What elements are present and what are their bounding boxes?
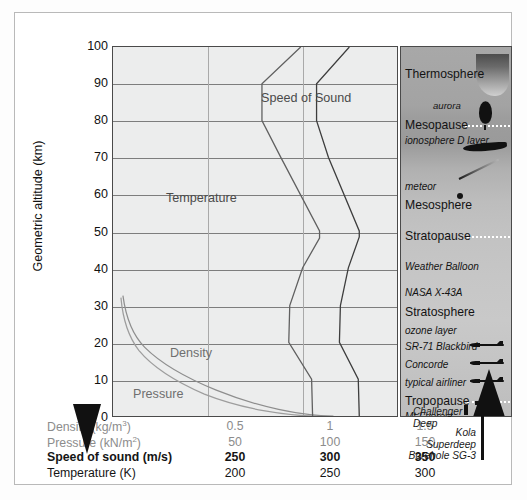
kola-borehole-label: KolaSuperdeepBorehole SG-3 (360, 427, 476, 462)
weather-balloon-icon (479, 101, 492, 123)
axis-row-label-speed-of-sound: Speed of sound (m/s) (47, 450, 207, 464)
temp-tick-2: 250 (302, 466, 358, 480)
challenger-deep-icon (73, 404, 101, 454)
concorde-icon (470, 359, 504, 366)
meteor-icon (459, 159, 499, 180)
sos-tick-2: 300 (302, 450, 358, 464)
axis-row-speed-of-sound: Speed of sound (m/s) 250 300 350 (47, 450, 407, 466)
label-speed-of-sound: Speed of Sound (261, 91, 351, 105)
layer-mesopause: Mesopause (405, 118, 468, 132)
atmospheric-layers-panel: Thermosphere aurora Mesopause ionosphere… (400, 46, 512, 417)
density-tick-1: 0.5 (207, 419, 263, 433)
pressure-tick-1: 50 (207, 435, 263, 449)
mt-everest-icon (473, 369, 505, 417)
y-tick-80: 80 (66, 114, 108, 127)
axis-value-table: Density (kg/m3) 0.5 1 1.5 Pressure (kN/m… (47, 419, 407, 481)
y-tick-10: 10 (66, 374, 108, 387)
label-density: Density (170, 346, 212, 360)
label-temperature: Temperature (166, 191, 237, 205)
kola-borehole-icon (481, 404, 484, 460)
y-tick-30: 30 (66, 300, 108, 313)
layer-stratopause: Stratopause (405, 229, 471, 243)
axis-row-temperature: Temperature (K) 200 250 300 (47, 466, 407, 482)
y-tick-100: 100 (66, 40, 108, 53)
y-axis-title: Geometric altitude (km) (31, 96, 45, 316)
axis-row-label-pressure: Pressure (kN/m2) (47, 435, 207, 450)
data-curves (113, 47, 397, 416)
y-axis-ticks: 100 90 80 70 60 50 40 30 20 10 0 (62, 46, 108, 417)
layer-typical-airliner: typical airliner (405, 377, 466, 388)
temp-tick-3: 300 (397, 466, 453, 480)
layer-weather-balloon: Weather Balloon (405, 261, 479, 272)
layer-aurora: aurora (433, 100, 461, 111)
y-tick-20: 20 (66, 337, 108, 350)
temp-tick-1: 200 (207, 466, 263, 480)
challenger-deep-label: ChallengerDeep (413, 406, 462, 429)
y-tick-50: 50 (66, 226, 108, 239)
y-tick-70: 70 (66, 151, 108, 164)
y-tick-40: 40 (66, 263, 108, 276)
layer-meteor: meteor (405, 181, 436, 192)
sos-tick-1: 250 (207, 450, 263, 464)
layer-stratosphere: Stratosphere (405, 305, 475, 319)
axis-row-label-density: Density (kg/m3) (47, 419, 207, 434)
layer-concorde: Concorde (405, 359, 448, 370)
axis-row-label-temperature: Temperature (K) (47, 466, 207, 480)
atmosphere-chart-page: Geometric altitude (km) 100 90 80 70 60 … (0, 0, 527, 500)
pressure-tick-2: 100 (302, 435, 358, 449)
label-pressure: Pressure (133, 387, 183, 401)
weather-balloon-tether-icon (484, 125, 486, 130)
layer-sr71: SR-71 Blackbird (405, 341, 477, 352)
axis-row-pressure: Pressure (kN/m2) 50 100 150 (47, 435, 407, 451)
burj-khalifa-icon (464, 405, 468, 415)
stratopause-dotted-line (467, 236, 510, 238)
y-tick-60: 60 (66, 188, 108, 201)
layer-nasa-x43a: NASA X-43A (405, 287, 462, 298)
plot-area: Speed of Sound Temperature Density Press… (112, 46, 398, 417)
axis-row-density: Density (kg/m3) 0.5 1 1.5 (47, 419, 407, 435)
layer-mesosphere: Mesosphere (405, 198, 472, 212)
layer-ozone: ozone layer (405, 325, 457, 336)
layer-thermosphere: Thermosphere (405, 67, 484, 81)
density-tick-2: 1 (302, 419, 358, 433)
mesopause-dotted-line (465, 125, 510, 127)
y-tick-90: 90 (66, 77, 108, 90)
